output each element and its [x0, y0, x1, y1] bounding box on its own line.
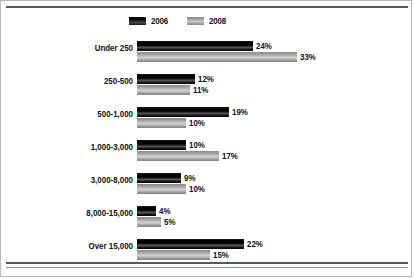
bar-line-2008: 33%: [137, 52, 318, 62]
chart-row: 8,000-15,000 4% 5%: [1, 202, 413, 235]
chart-row: 500-1,000 19% 10%: [1, 103, 413, 136]
bar-value-label-2006: 9%: [184, 173, 195, 183]
chart-row: 1,000-3,000 10% 17%: [1, 136, 413, 169]
bar-line-2008: 10%: [137, 184, 207, 194]
bar-line-2008: 5%: [137, 217, 177, 227]
bar-line-2008: 11%: [137, 85, 216, 95]
bar-2008: [137, 85, 190, 95]
legend-label-2008: 2008: [209, 16, 226, 26]
bar-group: 22% 15%: [137, 239, 265, 260]
bar-value-label-2006: 4%: [159, 206, 170, 216]
category-label: 1,000-3,000: [27, 140, 133, 154]
bar-2008: [137, 217, 161, 227]
bar-group: 4% 5%: [137, 206, 177, 227]
bar-value-label-2008: 5%: [164, 217, 175, 227]
bar-line-2006: 19%: [137, 107, 250, 117]
bar-2006: [137, 74, 195, 84]
top-divider-rule: [6, 6, 408, 8]
bar-2006: [137, 206, 156, 216]
bar-value-label-2008: 10%: [189, 184, 205, 194]
bottom-divider-rule-secondary: [6, 267, 408, 268]
bar-value-label-2006: 22%: [247, 239, 263, 249]
legend-swatch-2008-icon: [187, 17, 204, 25]
bar-2008: [137, 151, 219, 161]
category-label: Over 15,000: [27, 239, 133, 253]
bar-group: 19% 10%: [137, 107, 250, 128]
bar-2008: [137, 250, 210, 260]
bar-group: 12% 11%: [137, 74, 216, 95]
bar-2006: [137, 41, 253, 51]
bar-2006: [137, 107, 229, 117]
bar-2006: [137, 140, 186, 150]
category-label: Under 250: [27, 41, 133, 55]
bar-group: 9% 10%: [137, 173, 207, 194]
chart-legend: 2006 2008: [129, 16, 228, 26]
bar-value-label-2006: 24%: [256, 41, 272, 51]
bar-line-2008: 17%: [137, 151, 240, 161]
legend-swatch-2006-icon: [129, 17, 146, 25]
bar-2008: [137, 118, 186, 128]
bar-line-2006: 10%: [137, 140, 240, 150]
chart-container: 2006 2008 Under 250 24% 33% 250-500: [0, 0, 412, 277]
legend-label-2006: 2006: [151, 16, 168, 26]
legend-item-2008: 2008: [187, 16, 228, 26]
bar-group: 10% 17%: [137, 140, 240, 161]
chart-row: Under 250 24% 33%: [1, 37, 413, 70]
category-label: 3,000-8,000: [27, 173, 133, 187]
bar-line-2006: 22%: [137, 239, 265, 249]
bar-value-label-2008: 11%: [193, 85, 208, 95]
bar-2008: [137, 184, 186, 194]
chart-row: 250-500 12% 11%: [1, 70, 413, 103]
bar-value-label-2006: 12%: [198, 74, 214, 84]
bar-line-2006: 12%: [137, 74, 216, 84]
bar-group: 24% 33%: [137, 41, 318, 62]
chart-row: 3,000-8,000 9% 10%: [1, 169, 413, 202]
bar-2006: [137, 173, 181, 183]
bar-line-2006: 9%: [137, 173, 207, 183]
category-label: 8,000-15,000: [27, 206, 133, 220]
legend-item-2006: 2006: [129, 16, 170, 26]
bar-line-2006: 4%: [137, 206, 177, 216]
bar-2006: [137, 239, 244, 249]
bar-line-2008: 10%: [137, 118, 250, 128]
category-label: 250-500: [27, 74, 133, 88]
chart-plot-area: Under 250 24% 33% 250-500 12%: [1, 37, 413, 268]
bar-value-label-2008: 33%: [300, 52, 316, 62]
bar-value-label-2006: 19%: [232, 107, 248, 117]
bar-line-2006: 24%: [137, 41, 318, 51]
category-label: 500-1,000: [27, 107, 133, 121]
bar-value-label-2008: 17%: [222, 151, 238, 161]
bar-value-label-2008: 10%: [189, 118, 205, 128]
bottom-divider-rule: [6, 262, 408, 264]
bar-line-2008: 15%: [137, 250, 265, 260]
bar-value-label-2006: 10%: [189, 140, 205, 150]
bar-2008: [137, 52, 297, 62]
bar-value-label-2008: 15%: [213, 250, 229, 260]
